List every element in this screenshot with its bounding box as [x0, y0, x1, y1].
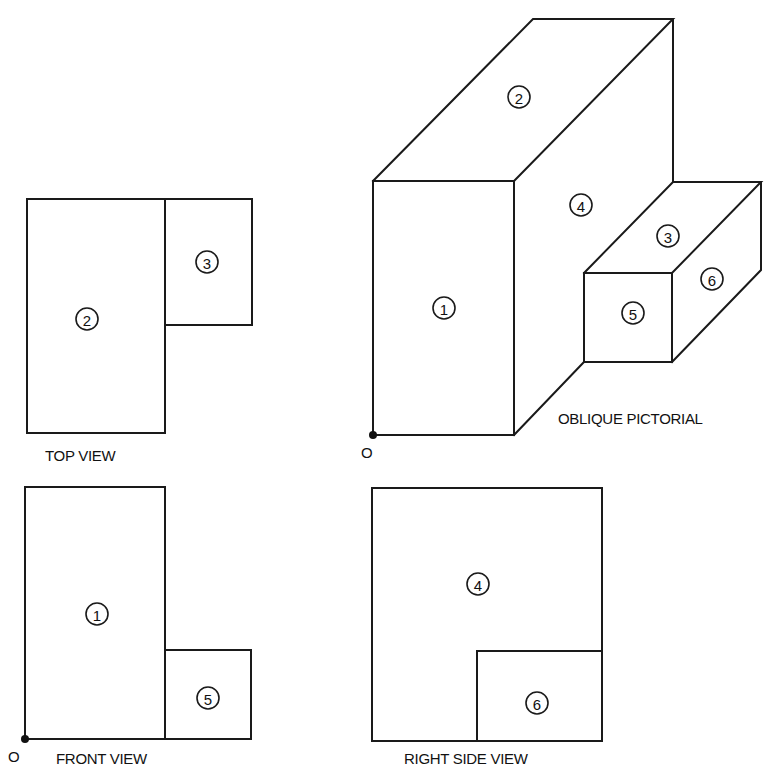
face-label-2: 2 — [76, 308, 98, 330]
face-label-3: 3 — [657, 225, 679, 247]
face-label-1: 1 — [433, 297, 455, 319]
svg-text:2: 2 — [515, 90, 523, 107]
svg-text:4: 4 — [474, 577, 482, 594]
face-label-4: 4 — [467, 573, 489, 595]
oblique-pictorial-caption: OBLIQUE PICTORIAL — [558, 410, 703, 427]
svg-text:4: 4 — [577, 198, 585, 215]
face-label-6: 6 — [526, 692, 548, 714]
svg-text:5: 5 — [629, 306, 637, 323]
face-label-5: 5 — [197, 687, 219, 709]
origin-label: O — [8, 748, 20, 765]
top-view-caption: TOP VIEW — [45, 447, 117, 464]
origin-point — [21, 735, 29, 743]
right-side-view: 4 6 RIGHT SIDE VIEW — [372, 488, 602, 767]
face-label-4: 4 — [570, 194, 592, 216]
front-view-caption: FRONT VIEW — [56, 750, 148, 767]
front-view: 1 5 O FRONT VIEW — [8, 487, 251, 767]
svg-text:2: 2 — [83, 312, 91, 329]
svg-text:1: 1 — [93, 607, 101, 624]
svg-text:3: 3 — [203, 255, 211, 272]
right-view-face-4 — [372, 488, 602, 741]
origin-label: O — [361, 444, 373, 461]
right-view-caption: RIGHT SIDE VIEW — [404, 750, 529, 767]
face-label-3: 3 — [196, 251, 218, 273]
svg-text:6: 6 — [533, 696, 541, 713]
svg-text:6: 6 — [708, 272, 716, 289]
face-label-1: 1 — [86, 603, 108, 625]
face-label-5: 5 — [622, 302, 644, 324]
top-view: 2 3 TOP VIEW — [27, 199, 252, 464]
oblique-pictorial: 1 2 3 4 5 6 O OBLIQUE PICTORIAL — [361, 19, 761, 461]
origin-point — [369, 431, 377, 439]
svg-text:5: 5 — [204, 691, 212, 708]
multiview-drawing: 2 3 TOP VIEW 1 2 3 — [0, 0, 779, 783]
face-label-2: 2 — [508, 86, 530, 108]
svg-text:3: 3 — [664, 229, 672, 246]
svg-text:1: 1 — [440, 301, 448, 318]
face-label-6: 6 — [701, 268, 723, 290]
